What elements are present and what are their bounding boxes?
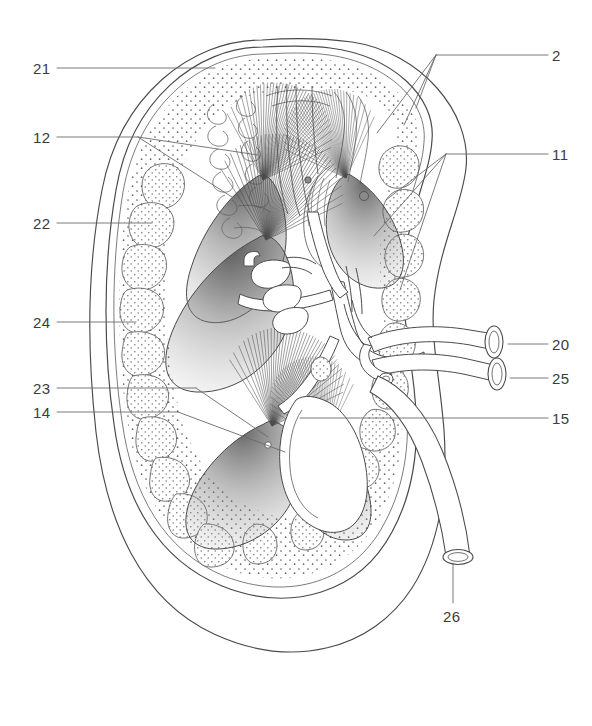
callout-label-22: 22 — [33, 216, 51, 231]
callout-label-11: 11 — [552, 147, 568, 162]
callout-label-14: 14 — [33, 405, 51, 420]
callout-label-21: 21 — [33, 61, 51, 76]
renal-artery-cut-end — [485, 326, 503, 358]
kidney-diagram-figure: 21122224231421120251526 — [0, 0, 592, 726]
kidney-diagram-canvas — [0, 0, 592, 726]
callout-label-20: 20 — [552, 337, 570, 352]
callout-label-15: 15 — [552, 411, 570, 426]
callout-label-26: 26 — [443, 609, 461, 624]
callout-label-25: 25 — [552, 371, 570, 386]
callout-label-23: 23 — [33, 381, 51, 396]
renal-vein-cut-end — [488, 358, 506, 390]
ureter-cut-end — [443, 550, 473, 565]
callout-label-24: 24 — [33, 315, 51, 330]
callout-label-2: 2 — [552, 48, 561, 63]
callout-label-12: 12 — [33, 130, 51, 145]
